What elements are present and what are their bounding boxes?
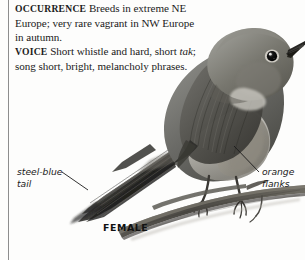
callout-orange-flanks: orange flanks bbox=[262, 166, 294, 189]
leader-line-steel-blue-tail bbox=[62, 172, 88, 190]
occurrence-paragraph: OCCURRENCE Breeds in extreme NE Europe; … bbox=[15, 1, 200, 44]
voice-body-start: Short whistle and hard, short bbox=[50, 45, 179, 57]
voice-italic-term: tak bbox=[179, 45, 192, 57]
bird-head bbox=[207, 28, 305, 111]
occurrence-heading: OCCURRENCE bbox=[15, 3, 86, 14]
voice-heading: VOICE bbox=[15, 46, 48, 57]
callout-steel-blue-tail: steel-blue tail bbox=[17, 166, 62, 189]
callout-orange-flanks-line2: flanks bbox=[262, 178, 294, 190]
species-text-block: OCCURRENCE Breeds in extreme NE Europe; … bbox=[15, 1, 200, 73]
voice-paragraph: VOICE Short whistle and hard, short tak;… bbox=[15, 44, 200, 73]
field-guide-page: OCCURRENCE Breeds in extreme NE Europe; … bbox=[0, 0, 305, 260]
callout-steel-blue-tail-line1: steel-blue bbox=[17, 166, 62, 178]
callout-orange-flanks-line1: orange bbox=[262, 166, 294, 178]
bird-eye bbox=[267, 51, 277, 61]
sex-caption-female: FEMALE bbox=[103, 222, 148, 233]
callout-steel-blue-tail-line2: tail bbox=[17, 178, 62, 190]
